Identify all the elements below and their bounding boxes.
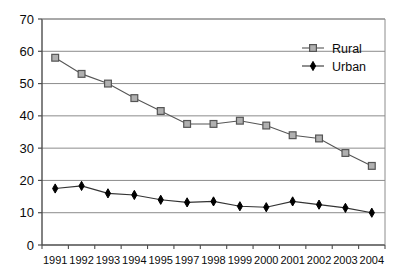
x-tick-label: 2002 xyxy=(307,254,331,266)
data-point-urban xyxy=(264,203,269,212)
series-group xyxy=(52,54,375,217)
data-point-urban xyxy=(290,197,295,206)
data-point-rural xyxy=(131,95,138,102)
data-point-urban xyxy=(316,200,321,209)
data-point-rural xyxy=(157,108,164,115)
x-tick-label: 1995 xyxy=(148,254,172,266)
data-point-rural xyxy=(52,54,59,61)
data-point-rural xyxy=(105,80,112,87)
data-point-urban xyxy=(343,203,348,212)
y-tick-label: 10 xyxy=(20,205,34,220)
x-tick-label: 1998 xyxy=(201,254,225,266)
y-tick-label: 20 xyxy=(20,173,34,188)
y-tick-label: 40 xyxy=(20,108,34,123)
series-line-rural xyxy=(55,58,372,166)
data-point-rural xyxy=(236,117,243,124)
x-tick-label: 1999 xyxy=(228,254,252,266)
data-point-urban xyxy=(79,181,84,190)
data-point-rural xyxy=(78,70,85,77)
data-point-urban xyxy=(105,189,110,198)
data-point-rural xyxy=(184,121,191,128)
y-tick-label: 70 xyxy=(20,12,34,27)
data-point-rural xyxy=(368,163,375,170)
x-tick-label: 1997 xyxy=(175,254,199,266)
y-tick-label: 50 xyxy=(20,76,34,91)
data-point-rural xyxy=(289,132,296,139)
legend-marker-rural xyxy=(310,45,317,52)
legend-marker-urban xyxy=(310,61,315,70)
x-tick-label: 1991 xyxy=(43,254,67,266)
y-tick-label: 0 xyxy=(27,238,34,253)
data-point-rural xyxy=(210,121,217,128)
line-chart: 010203040506070 199119921993199419951997… xyxy=(0,0,406,274)
data-point-urban xyxy=(53,184,58,193)
data-point-urban xyxy=(237,202,242,211)
legend-label-urban: Urban xyxy=(332,60,366,74)
y-tick-label: 60 xyxy=(20,44,34,59)
x-tick-label: 1994 xyxy=(122,254,146,266)
x-tick-label: 1993 xyxy=(96,254,120,266)
x-tick-label: 2000 xyxy=(254,254,278,266)
data-point-rural xyxy=(342,150,349,157)
x-tick-labels-group: 1991199219931994199519971998199920002001… xyxy=(43,254,384,266)
chart-legend: RuralUrban xyxy=(302,42,366,74)
y-tick-label: 30 xyxy=(20,141,34,156)
x-tick-label: 2004 xyxy=(360,254,384,266)
data-point-urban xyxy=(132,190,137,199)
chart-container: 010203040506070 199119921993199419951997… xyxy=(0,0,406,274)
data-point-urban xyxy=(158,195,163,204)
x-tick-label: 1992 xyxy=(69,254,93,266)
data-point-rural xyxy=(263,122,270,129)
legend-label-rural: Rural xyxy=(332,42,362,56)
data-point-urban xyxy=(185,198,190,207)
data-point-urban xyxy=(211,197,216,206)
y-tick-labels-group: 010203040506070 xyxy=(20,12,42,253)
data-point-rural xyxy=(316,135,323,142)
x-tick-label: 2001 xyxy=(280,254,304,266)
x-tick-label: 2003 xyxy=(333,254,357,266)
data-point-urban xyxy=(369,208,374,217)
